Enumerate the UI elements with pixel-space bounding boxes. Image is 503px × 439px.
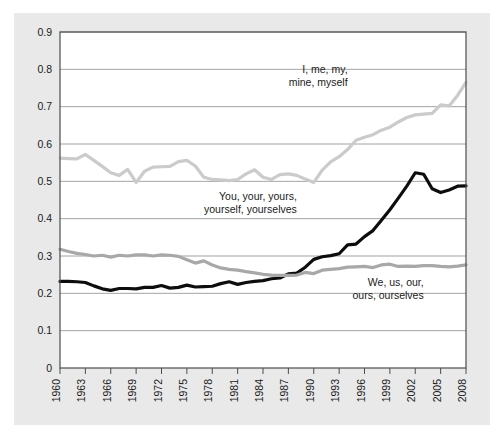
y-tick-label: 0.7 — [37, 100, 52, 112]
x-tick-label: 1960 — [50, 379, 62, 403]
series-annotation-label: ours, ourselves — [353, 289, 424, 301]
x-tick-label: 2002 — [405, 379, 417, 403]
series-annotation-label: mine, myself — [289, 76, 348, 88]
y-tick-label: 0.9 — [37, 26, 52, 38]
y-tick-label: 0.1 — [37, 324, 52, 336]
x-tick-label: 1996 — [355, 379, 367, 403]
chart-figure: 00.10.20.30.40.50.60.70.80.9 19601963196… — [0, 0, 503, 439]
x-tick-label: 1981 — [228, 379, 240, 403]
line-chart: 00.10.20.30.40.50.60.70.80.9 19601963196… — [0, 0, 503, 439]
x-axis-ticks — [60, 368, 466, 374]
y-tick-label: 0.5 — [37, 175, 52, 187]
x-tick-label: 2008 — [456, 379, 468, 403]
y-tick-label: 0.3 — [37, 250, 52, 262]
x-tick-label: 1978 — [202, 379, 214, 403]
series-annotation-label: We, us, our, — [368, 276, 424, 288]
series-annotation-label: I, me, my, — [302, 63, 347, 75]
x-tick-label: 1987 — [278, 379, 290, 403]
x-tick-label: 1999 — [380, 379, 392, 403]
y-tick-label: 0.4 — [37, 212, 52, 224]
x-tick-label: 1975 — [177, 379, 189, 403]
y-tick-label: 0.6 — [37, 138, 52, 150]
x-tick-label: 1972 — [152, 379, 164, 403]
series-annotation-label: You, your, yours, — [219, 190, 297, 202]
y-tick-label: 0 — [46, 362, 52, 374]
y-tick-label: 0.8 — [37, 63, 52, 75]
y-tick-label: 0.2 — [37, 287, 52, 299]
x-tick-label: 1990 — [304, 379, 316, 403]
x-tick-label: 1984 — [253, 379, 265, 403]
x-tick-label: 1969 — [126, 379, 138, 403]
x-tick-label: 2005 — [431, 379, 443, 403]
series-annotation-label: yourself, yourselves — [204, 203, 297, 215]
x-tick-label: 1963 — [75, 379, 87, 403]
x-tick-label: 1993 — [329, 379, 341, 403]
x-axis-tick-labels: 1960196319661969197219751978198119841987… — [50, 379, 468, 403]
y-axis-tick-labels: 00.10.20.30.40.50.60.70.80.9 — [37, 26, 52, 374]
x-tick-label: 1966 — [101, 379, 113, 403]
